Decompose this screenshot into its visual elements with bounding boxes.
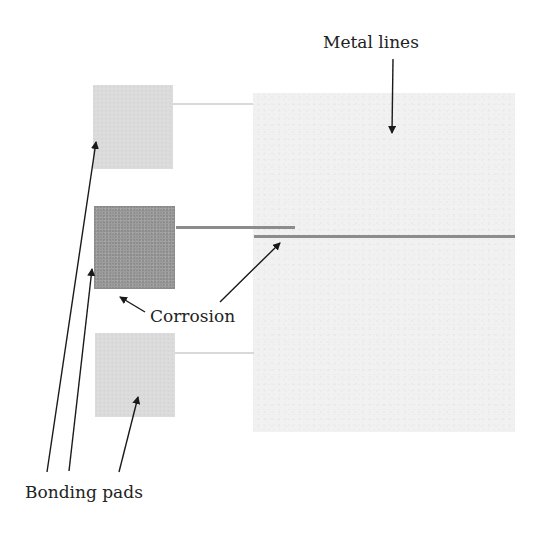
bonding-pad-corrosion-diagram: Metal lines Corrosion Bonding pads: [0, 0, 538, 534]
arrow-bonding-pad-middle: [69, 269, 92, 471]
bonding-pad-top: [93, 85, 173, 169]
label-corrosion: Corrosion: [150, 308, 235, 325]
bonding-pad-bottom: [95, 333, 175, 417]
metal-line-corroded-long: [254, 235, 515, 238]
metal-line-corroded-segment: [176, 226, 295, 229]
arrow-bonding-pad-top: [47, 142, 96, 472]
metal-line-top: [173, 103, 253, 105]
bonding-pad-corroded: [94, 206, 175, 289]
metal-line-bottom: [175, 352, 254, 354]
label-bonding-pads: Bonding pads: [25, 484, 143, 501]
label-metal-lines: Metal lines: [323, 34, 419, 51]
arrow-corrosion-pad: [120, 297, 145, 312]
metal-lines-region: [253, 93, 515, 432]
